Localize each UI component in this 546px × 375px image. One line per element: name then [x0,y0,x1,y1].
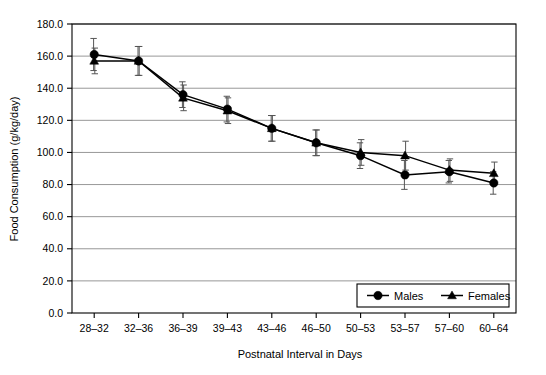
y-tick-label: 100.0 [37,146,63,158]
legend-label-females[interactable]: Females [468,290,511,302]
x-tick-label: 53–57 [390,322,419,334]
x-tick-label: 60–64 [479,322,508,334]
chart-figure: 0.020.040.060.080.0100.0120.0140.0160.01… [0,0,546,375]
x-axis-label: Postnatal Interval in Days [238,348,363,360]
y-tick-label: 0.0 [48,307,63,319]
y-tick-label: 20.0 [43,275,64,287]
legend-label-males[interactable]: Males [394,290,424,302]
line-chart: 0.020.040.060.080.0100.0120.0140.0160.01… [0,0,546,375]
x-tick-label: 28–32 [80,322,109,334]
x-tick-label: 36–39 [168,322,197,334]
x-tick-label: 32–36 [124,322,153,334]
y-tick-label: 60.0 [43,210,64,222]
x-tick-label: 46–50 [302,322,331,334]
legend-marker-males [374,291,382,299]
y-tick-label: 40.0 [43,242,64,254]
y-tick-label: 180.0 [37,18,63,30]
y-tick-label: 140.0 [37,82,63,94]
legend[interactable]: MalesFemales [357,284,511,307]
y-tick-label: 120.0 [37,114,63,126]
x-tick-label: 57–60 [435,322,464,334]
y-tick-label: 80.0 [43,178,64,190]
y-tick-label: 160.0 [37,50,63,62]
x-tick-label: 43–46 [257,322,286,334]
data-point-marker-males [401,171,409,179]
data-point-marker-males [490,179,498,187]
x-tick-label: 50–53 [346,322,375,334]
y-axis-label: Food Consumption (g/kg/day) [8,97,20,242]
x-tick-label: 39–43 [213,322,242,334]
